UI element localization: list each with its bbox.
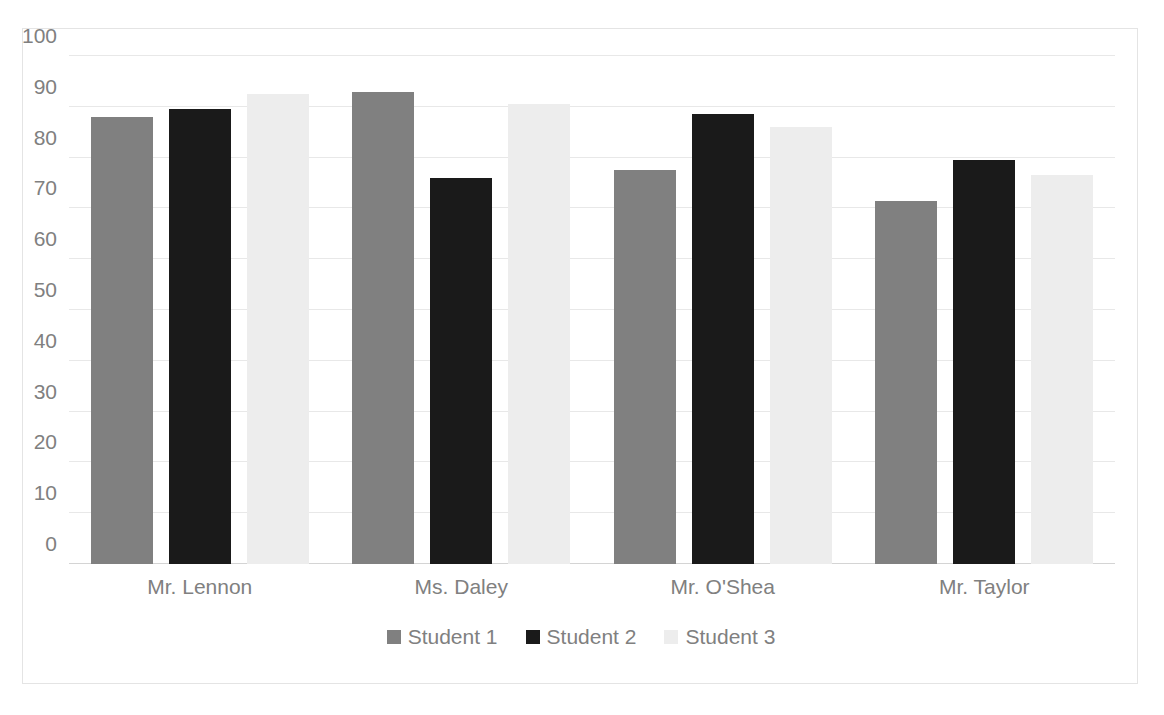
bar-groups xyxy=(69,56,1115,564)
legend-item[interactable]: Student 1 xyxy=(387,625,498,649)
legend-item[interactable]: Student 3 xyxy=(664,625,775,649)
bar-slot xyxy=(770,56,832,564)
bar[interactable] xyxy=(692,114,754,564)
bar-slot xyxy=(430,56,492,564)
bar-slot xyxy=(247,56,309,564)
legend-swatch-icon xyxy=(387,630,401,644)
bar[interactable] xyxy=(247,94,309,564)
y-axis-tick-label: 20 xyxy=(34,431,57,452)
bar-slot xyxy=(352,56,414,564)
legend-label: Student 3 xyxy=(685,625,775,649)
y-axis-tick-label: 10 xyxy=(34,482,57,503)
bar[interactable] xyxy=(875,201,937,564)
bar[interactable] xyxy=(1031,175,1093,564)
bar-group xyxy=(854,56,1116,564)
x-axis-tick-label: Mr. Taylor xyxy=(854,575,1116,599)
y-axis-tick-label: 90 xyxy=(34,75,57,96)
plot-area: 0102030405060708090100 xyxy=(69,56,1115,564)
x-axis-tick-label: Mr. Lennon xyxy=(69,575,331,599)
y-axis-tick-label: 70 xyxy=(34,177,57,198)
y-axis-tick-label: 40 xyxy=(34,329,57,350)
legend-swatch-icon xyxy=(526,630,540,644)
bar-slot xyxy=(508,56,570,564)
legend-swatch-icon xyxy=(664,630,678,644)
bar-slot xyxy=(1031,56,1093,564)
bar-slot xyxy=(169,56,231,564)
bar-slot xyxy=(91,56,153,564)
x-axis-tick-label: Ms. Daley xyxy=(331,575,593,599)
bar[interactable] xyxy=(430,178,492,564)
y-axis-tick-label: 60 xyxy=(34,228,57,249)
y-axis-tick-label: 30 xyxy=(34,380,57,401)
legend-item[interactable]: Student 2 xyxy=(526,625,637,649)
bar-slot xyxy=(953,56,1015,564)
bar-group xyxy=(331,56,593,564)
chart-legend: Student 1Student 2Student 3 xyxy=(23,625,1139,649)
bar[interactable] xyxy=(770,127,832,564)
y-axis-tick-label: 50 xyxy=(34,279,57,300)
bar[interactable] xyxy=(91,117,153,564)
bar-slot xyxy=(692,56,754,564)
chart-container: 0102030405060708090100 Mr. LennonMs. Dal… xyxy=(22,28,1138,684)
y-axis-tick-label: 0 xyxy=(45,533,57,554)
y-axis-tick-label: 80 xyxy=(34,126,57,147)
bar-slot xyxy=(614,56,676,564)
y-axis-tick-label: 100 xyxy=(22,25,57,46)
bar[interactable] xyxy=(508,104,570,564)
legend-label: Student 1 xyxy=(408,625,498,649)
bar-slot xyxy=(875,56,937,564)
x-axis-tick-labels: Mr. LennonMs. DaleyMr. O'SheaMr. Taylor xyxy=(69,575,1115,599)
bar[interactable] xyxy=(614,170,676,564)
bar-group xyxy=(69,56,331,564)
bar[interactable] xyxy=(352,92,414,564)
bar[interactable] xyxy=(169,109,231,564)
bar[interactable] xyxy=(953,160,1015,564)
x-axis-tick-label: Mr. O'Shea xyxy=(592,575,854,599)
legend-label: Student 2 xyxy=(547,625,637,649)
bar-group xyxy=(592,56,854,564)
chart-title xyxy=(23,15,1139,29)
